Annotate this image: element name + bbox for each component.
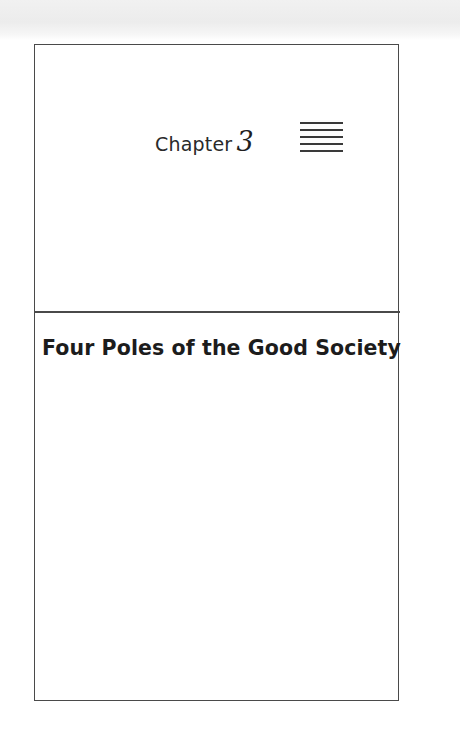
section-divider	[34, 311, 400, 313]
chapter-title: Four Poles of the Good Society	[42, 336, 401, 361]
ornament-rule	[300, 136, 343, 138]
horizontal-rules-ornament-icon	[300, 122, 343, 152]
ornament-rule	[300, 143, 343, 145]
ornament-rule	[300, 150, 343, 152]
chapter-label: Chapter	[155, 135, 232, 154]
chapter-heading: Chapter 3	[155, 118, 254, 158]
ornament-rule	[300, 129, 343, 131]
chapter-number: 3	[236, 128, 253, 155]
scan-artifact-band	[0, 0, 460, 40]
ornament-rule	[300, 122, 343, 124]
